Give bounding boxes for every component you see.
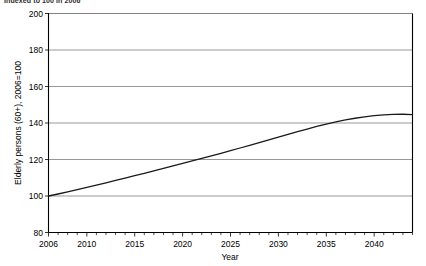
x-tick-label-2025: 2025 [221,239,240,249]
x-axis-title: Year [221,252,238,262]
x-tick-label-2015: 2015 [125,239,144,249]
y-tick-label-80: 80 [34,228,44,238]
x-tick-label-2010: 2010 [77,239,96,249]
y-tick-label-160: 160 [29,82,43,92]
x-tick-label-2020: 2020 [173,239,192,249]
x-tick-label-2006: 2006 [39,239,58,249]
y-tick-label-180: 180 [29,45,43,55]
x-tick-label-2035: 2035 [317,239,336,249]
y-tick-label-120: 120 [29,155,43,165]
chart-container: Indexed to 100 in 2006 80100120140160180… [0,0,426,266]
line-chart: 8010012014016018020020062010201520202025… [0,0,426,266]
y-tick-label-140: 140 [29,118,43,128]
x-tick-label-2030: 2030 [269,239,288,249]
x-tick-label-2040: 2040 [365,239,384,249]
y-tick-label-200: 200 [29,9,43,19]
y-tick-label-100: 100 [29,191,43,201]
y-axis-title: Elderly persons (60+), 2006=100 [13,61,23,185]
series-line-elderly-index [49,114,413,196]
